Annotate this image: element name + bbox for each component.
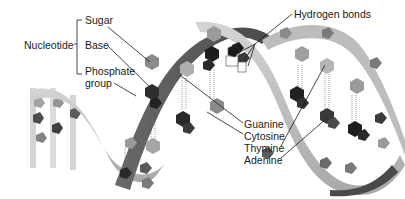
label-sugar: Sugar	[85, 14, 113, 26]
label-base: Base	[85, 39, 109, 51]
label-guanine: Guanine	[244, 118, 284, 130]
label-phosphate-line2: group	[85, 77, 112, 89]
label-cytosine: Cytosine	[244, 130, 285, 142]
label-phosphate-line1: Phosphate	[85, 65, 135, 77]
backbone-lower-right-dark	[330, 165, 398, 196]
label-hydrogen-bonds: Hydrogen bonds	[294, 8, 371, 20]
label-nucleotide: Nucleotide	[24, 39, 74, 51]
dna-diagram: Nucleotide Sugar Base Phosphate group Hy…	[0, 0, 405, 199]
label-thymine: Thymine	[244, 142, 284, 154]
dna-helix-illustration	[0, 0, 405, 199]
helix-left-segment	[30, 88, 81, 170]
label-adenine: Adenine	[244, 154, 283, 166]
